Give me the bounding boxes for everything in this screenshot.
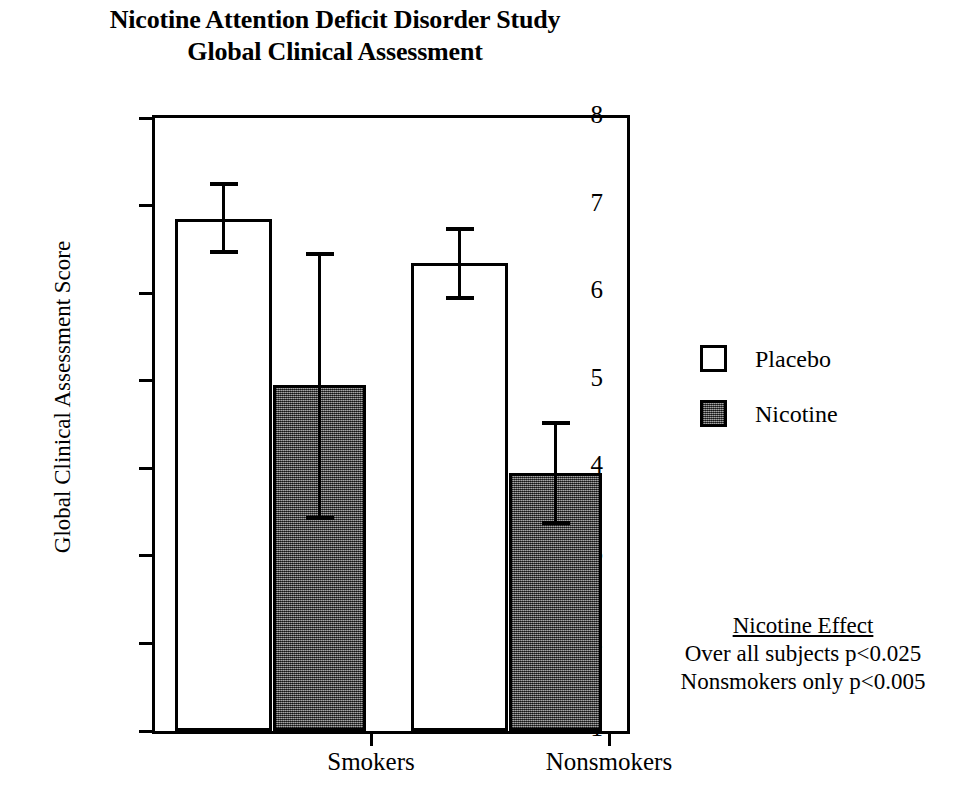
legend-item-nicotine: Nicotine (700, 400, 838, 427)
error-cap-upper-nicotine-nonsmokers (542, 421, 570, 425)
x-axis-tick-label: Smokers (261, 749, 481, 774)
y-axis-tick (139, 379, 152, 382)
annotation-line-2: Nonsmokers only p<0.005 (648, 668, 958, 696)
chart-title-line-2: Global Clinical Assessment (30, 36, 640, 68)
annotation-heading-wrap: Nicotine Effect (648, 612, 958, 640)
y-axis-tick (139, 292, 152, 295)
y-axis-tick (139, 204, 152, 207)
x-axis-tick-label: Nonsmokers (499, 749, 719, 774)
plot-area: 12345678SmokersNonsmokers (152, 115, 630, 734)
legend-swatch-nicotine-icon (700, 400, 727, 427)
error-cap-lower-placebo-smokers (210, 250, 238, 254)
chart-figure: Nicotine Attention Deficit Disorder Stud… (0, 0, 965, 794)
y-axis-tick (139, 467, 152, 470)
y-axis-tick-label: 5 (563, 365, 603, 390)
significance-annotation: Nicotine Effect Over all subjects p<0.02… (648, 612, 958, 696)
chart-title: Nicotine Attention Deficit Disorder Stud… (30, 4, 640, 67)
y-axis-tick (139, 554, 152, 557)
error-bar-placebo-smokers (222, 184, 225, 252)
y-axis-tick-label: 7 (563, 190, 603, 215)
legend-label-placebo: Placebo (755, 347, 831, 371)
annotation-line-1: Over all subjects p<0.025 (648, 640, 958, 668)
y-axis-tick-label: 8 (563, 102, 603, 127)
y-axis-tick (139, 642, 152, 645)
legend-item-placebo: Placebo (700, 345, 838, 372)
error-cap-lower-placebo-nonsmokers (446, 296, 474, 300)
chart-title-line-1: Nicotine Attention Deficit Disorder Stud… (30, 4, 640, 36)
error-bar-nicotine-smokers (318, 254, 321, 518)
error-cap-lower-nicotine-nonsmokers (542, 521, 570, 525)
chart-legend: Placebo Nicotine (700, 345, 838, 455)
y-axis-label: Global Clinical Assessment Score (50, 162, 76, 632)
x-axis-tick (608, 731, 611, 746)
bar-placebo-smokers (175, 219, 272, 731)
error-cap-upper-nicotine-smokers (306, 252, 334, 256)
error-cap-upper-placebo-nonsmokers (446, 227, 474, 231)
error-cap-lower-nicotine-smokers (306, 516, 334, 520)
error-cap-upper-placebo-smokers (210, 182, 238, 186)
legend-swatch-placebo-icon (700, 345, 727, 372)
x-axis-tick (370, 731, 373, 746)
y-axis-tick (139, 730, 152, 733)
annotation-heading: Nicotine Effect (733, 612, 874, 640)
y-axis-tick (139, 117, 152, 120)
legend-label-nicotine: Nicotine (755, 402, 838, 426)
bar-placebo-nonsmokers (411, 263, 508, 732)
error-bar-nicotine-nonsmokers (554, 423, 557, 524)
error-bar-placebo-nonsmokers (458, 229, 461, 297)
y-axis-tick-label: 6 (563, 277, 603, 302)
